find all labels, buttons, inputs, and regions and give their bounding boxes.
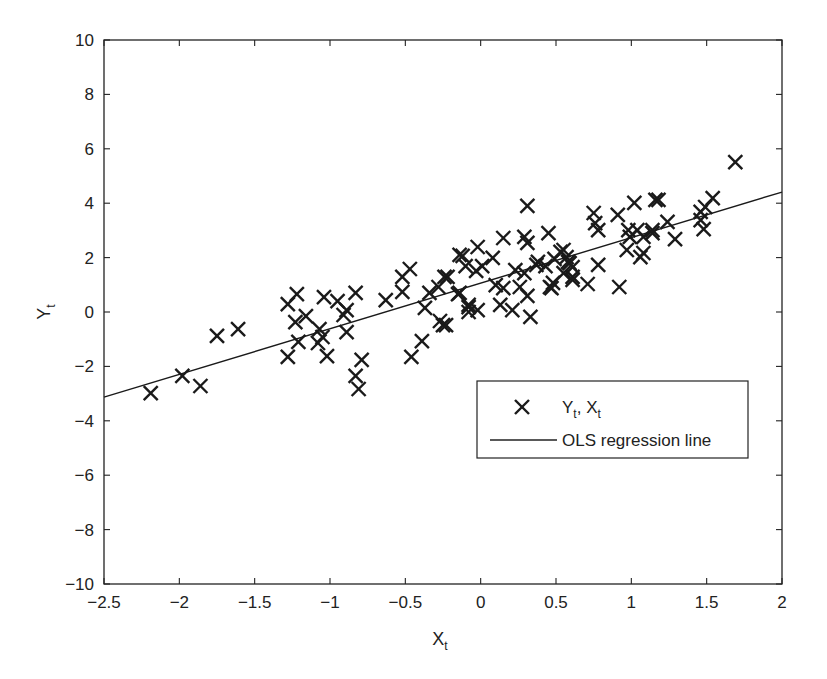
y-tick-label: −8	[75, 521, 94, 540]
legend: Yt, Xt OLS regression line	[477, 381, 748, 458]
scatter-chart: −2.5−2−1.5−1−0.500.511.52−10−8−6−4−20246…	[0, 0, 827, 679]
x-tick-label: −2.5	[87, 593, 121, 612]
y-tick-label: 8	[85, 85, 94, 104]
x-tick-label: 2	[777, 593, 786, 612]
y-tick-label: 2	[85, 249, 94, 268]
y-tick-label: 10	[75, 31, 94, 50]
x-tick-label: 1	[627, 593, 636, 612]
x-tick-label: −0.5	[389, 593, 423, 612]
y-tick-label: 0	[85, 303, 94, 322]
y-tick-label: −10	[65, 575, 94, 594]
x-tick-label: 0.5	[544, 593, 568, 612]
background	[0, 0, 827, 679]
x-tick-label: −1	[320, 593, 339, 612]
x-tick-label: 0	[476, 593, 485, 612]
legend-label-regression: OLS regression line	[562, 431, 711, 450]
y-tick-label: 6	[85, 140, 94, 159]
y-tick-label: −2	[75, 357, 94, 376]
y-tick-label: −4	[75, 412, 94, 431]
x-tick-label: −2	[170, 593, 189, 612]
x-tick-label: −1.5	[238, 593, 272, 612]
y-tick-label: −6	[75, 466, 94, 485]
x-tick-label: 1.5	[695, 593, 719, 612]
y-tick-label: 4	[85, 194, 94, 213]
